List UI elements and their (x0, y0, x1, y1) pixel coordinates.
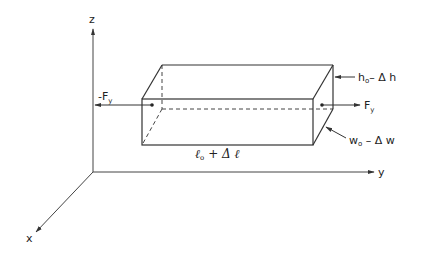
width-leader (326, 127, 346, 138)
bar-hidden-edges (142, 65, 333, 145)
length-label: ℓo+ Δ ℓ (195, 147, 240, 162)
y-axis-label: y (378, 166, 385, 179)
coordinate-axes (36, 29, 374, 232)
z-axis-label: z (89, 13, 95, 26)
bar-front-face (142, 99, 313, 145)
height-label: ho– Δ h (358, 71, 396, 85)
bar-visible-edges (142, 65, 333, 145)
width-label: wo – Δ w (349, 134, 395, 148)
force-left (95, 103, 154, 107)
force-left-label: -Fy (98, 90, 112, 105)
deformed-bar-diagram: z y x -Fy Fy ho– Δ h wo – Δ w ℓo+ Δ (0, 0, 423, 256)
force-right-label: Fy (364, 99, 374, 114)
x-axis (36, 172, 93, 232)
force-right (320, 103, 360, 107)
x-axis-label: x (26, 232, 33, 245)
